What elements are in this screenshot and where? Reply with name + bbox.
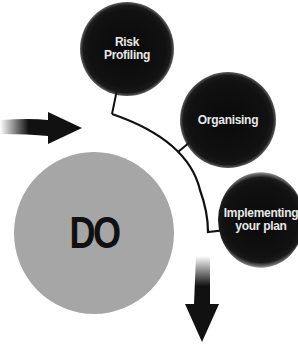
outgoing-arrow-icon: [185, 256, 219, 342]
do-label: DO: [69, 208, 118, 258]
step-label: Risk Profiling: [104, 36, 150, 62]
do-circle: DO: [14, 152, 174, 314]
step-node-risk-profiling: Risk Profiling: [80, 2, 174, 96]
do-cycle-diagram: Risk Profiling Organising Implementing y…: [0, 0, 298, 347]
step-label: Organising: [198, 114, 258, 127]
incoming-arrow-icon: [0, 112, 82, 144]
step-node-organising: Organising: [180, 72, 276, 168]
step-label: Implementing your plan: [224, 207, 298, 233]
step-node-implementing: Implementing your plan: [218, 172, 298, 268]
